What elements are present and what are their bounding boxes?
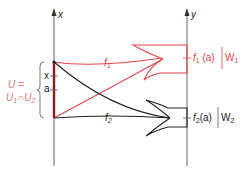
mapping-diagram-canvas xyxy=(0,0,252,179)
image-label-f1a: f1 (a) xyxy=(193,53,215,66)
map-label-f2: f2 xyxy=(105,113,112,126)
right-axis xyxy=(185,8,190,166)
set-label-U: U = xyxy=(8,80,24,90)
domain-top-point xyxy=(52,60,55,63)
left-axis-label: x xyxy=(58,10,63,20)
set-label-U-intersection: U1∩U2 xyxy=(6,93,35,106)
tick-label-a: a xyxy=(44,84,50,94)
map-label-f1: f1 xyxy=(104,58,111,71)
set-label-W1: W1 xyxy=(225,53,238,66)
tick-label-x: x xyxy=(44,71,49,81)
brace-left xyxy=(37,62,44,118)
right-axis-label: y xyxy=(191,10,196,20)
image-label-f2a: f2(a) xyxy=(193,113,212,126)
set-label-W2: W2 xyxy=(221,113,234,126)
